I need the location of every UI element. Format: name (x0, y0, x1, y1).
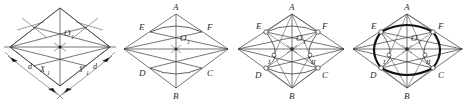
panel-2-label-A: A (172, 2, 179, 12)
panel-3-label-B: B (289, 91, 295, 101)
diagram-panel-2: A B E F D C O 1 (120, 0, 232, 102)
panel-1-axis-x-label: X (39, 65, 46, 74)
node-D (379, 66, 383, 70)
node-zone-left (387, 53, 391, 57)
dim-arrow-left-end (48, 88, 56, 93)
panel-3-label-F: F (321, 21, 328, 31)
arc-zone-left-upper (266, 32, 275, 55)
panel-4-label-A: A (403, 2, 410, 12)
panel-4-label-B: B (404, 91, 410, 101)
arc-zone-left-upper (381, 32, 390, 55)
panel-2-label-C: C (207, 68, 214, 78)
arc-zone-right-upper (424, 32, 433, 55)
panel-3-center-sub: 1 (303, 39, 306, 45)
panel-4-label-F: F (437, 21, 444, 31)
node-F (431, 30, 435, 34)
panel-4-center-label: O (411, 33, 418, 43)
panel-4-center-sub: 1 (418, 39, 421, 45)
node-C (431, 66, 435, 70)
center-point-marker (58, 45, 61, 48)
node-D (264, 66, 268, 70)
panel-2-center-sub: 1 (187, 39, 190, 45)
chord-d-right (33, 47, 110, 66)
node-zone-left (272, 53, 276, 57)
panel-3-zone-right-label: II (310, 58, 316, 66)
ray-b-zone-right (292, 55, 310, 88)
envelope-left (374, 32, 381, 68)
panel-2-canvas: A B E F D C O 1 (120, 0, 232, 102)
panel-1-dim-left-label: d (28, 62, 33, 71)
node-zone-right (423, 53, 427, 57)
panel-2-label-F: F (206, 22, 213, 32)
node-C (316, 66, 320, 70)
figure-strip: O 1 d X 1 Y 1 d (0, 0, 463, 102)
panel-3-center-label: O (296, 33, 303, 43)
node-F (316, 30, 320, 34)
panel-3-label-C: C (322, 70, 329, 80)
panel-4-label-D: D (369, 70, 377, 80)
panel-2-center-label: O (180, 33, 187, 43)
panel-2-label-E: E (138, 22, 145, 32)
panel-4-label-C: C (438, 70, 445, 80)
node-E (379, 30, 383, 34)
panel-3-label-A: A (288, 2, 295, 12)
diagram-panel-3: A B E F D C O 1 I II (232, 0, 347, 102)
diagram-panel-4: A B E F D C O 1 I II (347, 0, 463, 102)
panel-1-axis-x-sub: 1 (47, 70, 50, 76)
panel-2-label-D: D (138, 68, 146, 78)
dim-arrow-right-end (64, 88, 72, 93)
node-zone-right (308, 53, 312, 57)
dim-tick-left-inner (55, 91, 63, 99)
panel-1-canvas: O 1 d X 1 Y 1 d (0, 0, 120, 102)
panel-1-axis-y-label: Y (79, 65, 85, 74)
diagram-panel-1: O 1 d X 1 Y 1 d (0, 0, 120, 102)
panel-1-axis-y-sub: 1 (86, 70, 89, 76)
ray-b-d (266, 68, 292, 88)
panel-1-center-label: O (64, 28, 71, 38)
panel-2-label-B: B (173, 91, 179, 101)
panel-4-zone-right-label: II (425, 58, 431, 66)
arc-zone-right-upper (309, 32, 318, 55)
panel-3-label-D: D (254, 70, 262, 80)
ray-b-c (292, 68, 318, 88)
dim-tick-right-inner (57, 91, 65, 99)
panel-1-dim-right-label: d (93, 62, 98, 71)
panel-1-center-sub: 1 (71, 34, 74, 40)
node-E (264, 30, 268, 34)
panel-4-canvas: A B E F D C O 1 I II (347, 0, 463, 102)
panel-3-canvas: A B E F D C O 1 I II (232, 0, 347, 102)
chord-c-left (10, 47, 87, 66)
envelope-right (433, 32, 440, 68)
dim-arrow-left-start (10, 57, 18, 62)
panel-3-label-E: E (255, 21, 262, 31)
chord-f-left (10, 27, 87, 47)
panel-4-label-E: E (370, 21, 377, 31)
dim-arrow-right-start (102, 57, 110, 62)
